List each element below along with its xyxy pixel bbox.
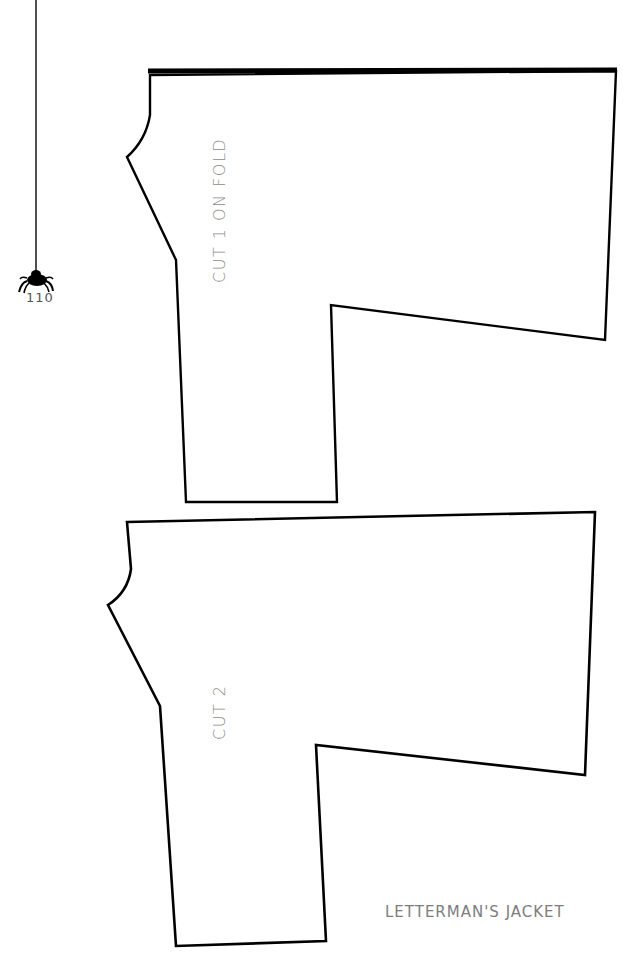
pattern-drawing (0, 0, 628, 976)
pattern-title: LETTERMAN'S JACKET (385, 903, 565, 921)
piece-1-outline (127, 71, 616, 502)
piece-2-outline (108, 512, 595, 946)
pattern-page: 110 CUT 1 ON FOLD CUT 2 LETTERMAN'S JACK… (0, 0, 628, 976)
pattern-piece-1 (127, 70, 617, 502)
pattern-piece-2 (108, 512, 595, 946)
piece-2-cut-label: CUT 2 (210, 685, 229, 740)
fold-line (148, 70, 617, 71)
page-number: 110 (26, 290, 54, 305)
piece-1-cut-label: CUT 1 ON FOLD (210, 138, 229, 283)
